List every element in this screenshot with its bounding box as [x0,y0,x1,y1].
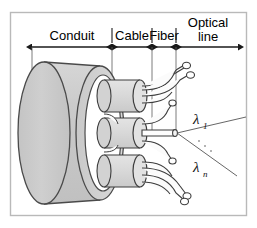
fiber-group-top [142,62,195,103]
fiber-group-middle [142,100,177,164]
figure-container: Conduit Cable Fiber Optical line [0,0,257,228]
cable-middle [97,118,147,148]
cable-bottom [97,155,147,187]
optical-ray-fan [177,117,246,176]
conduit-left-face [18,62,70,204]
lambda-last-subscript: n [203,169,208,179]
lambda-first-symbol: λ [192,111,200,127]
ray-lambda-1 [177,117,246,133]
dimension-label-conduit: Conduit [50,28,95,43]
lambda-first-subscript: 1 [203,121,208,131]
dimension-label-cable: Cable [115,28,149,43]
wavelength-label-last: λ n [192,159,208,179]
dimension-label-fiber: Fiber [149,28,179,43]
lambda-last-symbol: λ [192,159,200,175]
fiber-group-bottom [142,162,191,205]
dimension-label-optical-line-line1: Optical [188,15,229,30]
fiber-straight-emitting [142,130,174,136]
dimension-label-optical-line-line2: line [198,29,218,44]
cable-top [97,80,147,112]
fiber-tip [173,130,178,137]
diagram-canvas: Conduit Cable Fiber Optical line [0,0,257,228]
